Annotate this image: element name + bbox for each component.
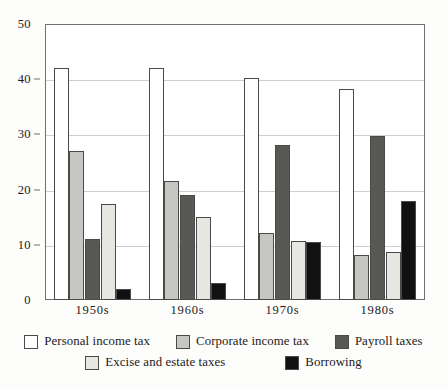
bar-1980s-excise-and-estate-taxes — [386, 252, 401, 300]
bars-layer — [45, 24, 425, 300]
x-axis: 1950s1960s1970s1980s — [45, 303, 425, 323]
legend-item-borrowing[interactable]: Borrowing — [285, 355, 361, 370]
legend-label: Borrowing — [305, 355, 361, 370]
legend-label: Personal income tax — [44, 334, 150, 349]
legend-swatch-icon — [335, 335, 349, 349]
legend-item-payroll-taxes[interactable]: Payroll taxes — [335, 334, 423, 349]
y-tick-mark-10 — [34, 244, 40, 245]
y-tick-label-50: 50 — [18, 17, 31, 32]
legend-swatch-icon — [285, 356, 299, 370]
x-tick-label-1970s: 1970s — [235, 303, 330, 318]
legend-row-2: Excise and estate taxesBorrowing — [0, 352, 447, 373]
legend-label: Corporate income tax — [196, 334, 309, 349]
bar-group-1970s — [235, 24, 330, 300]
bar-1960s-excise-and-estate-taxes — [196, 217, 211, 300]
y-tick-mark-40 — [34, 79, 40, 80]
bar-1950s-borrowing — [116, 289, 131, 300]
bar-1970s-borrowing — [306, 242, 321, 300]
legend-swatch-icon — [85, 356, 99, 370]
y-tick-label-30: 30 — [18, 127, 31, 142]
bar-1950s-excise-and-estate-taxes — [101, 204, 116, 300]
bar-1950s-payroll-taxes — [85, 239, 100, 300]
legend-label: Excise and estate taxes — [105, 355, 225, 370]
y-tick-mark-20 — [34, 189, 40, 190]
x-tick-label-1950s: 1950s — [45, 303, 140, 318]
bar-1980s-corporate-income-tax — [354, 255, 369, 300]
bar-1960s-payroll-taxes — [180, 195, 195, 300]
bar-1950s-corporate-income-tax — [69, 151, 84, 300]
bar-1980s-personal-income-tax — [339, 89, 354, 300]
y-axis: 01020304050 — [0, 24, 40, 300]
legend-item-excise-and-estate-taxes[interactable]: Excise and estate taxes — [85, 355, 225, 370]
bar-1970s-personal-income-tax — [244, 78, 259, 300]
bar-1960s-borrowing — [211, 283, 226, 300]
y-tick-label-10: 10 — [18, 237, 31, 252]
bar-1980s-borrowing — [401, 201, 416, 300]
bar-group-1960s — [140, 24, 235, 300]
bar-group-1980s — [330, 24, 425, 300]
legend-row-1: Personal income taxCorporate income taxP… — [0, 331, 447, 352]
y-tick-label-40: 40 — [18, 72, 31, 87]
legend-swatch-icon — [176, 335, 190, 349]
bar-group-1950s — [45, 24, 140, 300]
x-tick-label-1960s: 1960s — [140, 303, 235, 318]
legend-item-personal-income-tax[interactable]: Personal income tax — [24, 334, 150, 349]
bar-1950s-personal-income-tax — [54, 68, 69, 300]
bar-1960s-personal-income-tax — [149, 68, 164, 300]
bar-1960s-corporate-income-tax — [164, 181, 179, 300]
bar-1970s-excise-and-estate-taxes — [291, 241, 306, 300]
chart-figure: 01020304050 1950s1960s1970s1980s Persona… — [0, 0, 447, 389]
x-tick-label-1980s: 1980s — [330, 303, 425, 318]
bar-1970s-payroll-taxes — [275, 145, 290, 300]
legend-swatch-icon — [24, 335, 38, 349]
legend-label: Payroll taxes — [355, 334, 423, 349]
bar-1980s-payroll-taxes — [370, 136, 385, 300]
y-tick-label-20: 20 — [18, 182, 31, 197]
y-tick-label-0: 0 — [24, 293, 31, 308]
chart-legend: Personal income taxCorporate income taxP… — [0, 331, 447, 373]
legend-item-corporate-income-tax[interactable]: Corporate income tax — [176, 334, 309, 349]
y-tick-mark-30 — [34, 134, 40, 135]
bar-1970s-corporate-income-tax — [259, 233, 274, 300]
